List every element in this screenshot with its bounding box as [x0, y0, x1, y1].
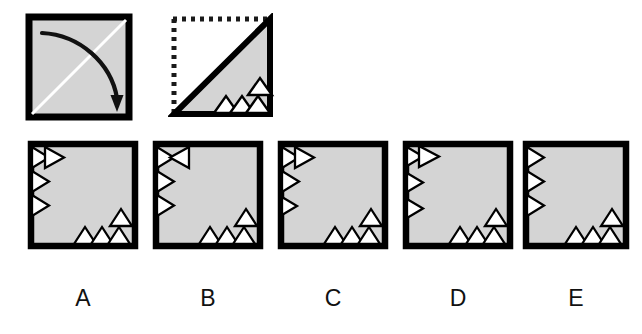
option-d[interactable]	[402, 140, 514, 250]
option-a[interactable]	[27, 140, 139, 250]
option-label-b: B	[183, 285, 233, 312]
option-e-left-notches	[527, 147, 544, 216]
punch-step-panel	[168, 13, 278, 121]
puzzle-stage: A B C D E	[0, 0, 642, 334]
option-e-figure[interactable]	[522, 140, 630, 250]
option-d-figure[interactable]	[402, 140, 514, 250]
fold-step-figure	[25, 13, 133, 121]
option-c[interactable]	[277, 140, 389, 250]
punch-step-figure	[168, 13, 278, 121]
option-e[interactable]	[522, 140, 630, 250]
option-c-figure[interactable]	[277, 140, 389, 250]
option-label-a: A	[58, 285, 108, 312]
fold-step-panel	[25, 13, 133, 121]
option-a-figure[interactable]	[27, 140, 139, 250]
option-label-c: C	[308, 285, 358, 312]
option-b-figure[interactable]	[152, 140, 264, 250]
option-label-e: E	[551, 285, 601, 312]
option-label-d: D	[433, 285, 483, 312]
option-b[interactable]	[152, 140, 264, 250]
